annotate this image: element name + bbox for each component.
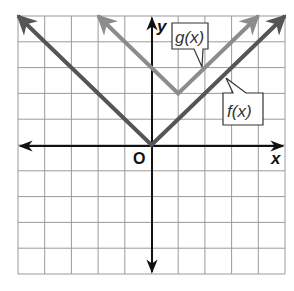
origin-label: O: [133, 150, 145, 167]
g-of-x-label: g(x): [175, 28, 204, 47]
y-axis-label: y: [156, 17, 168, 36]
x-axis-label: x: [270, 149, 282, 168]
g-of-x-callout: g(x): [172, 23, 208, 67]
coordinate-graph: y O x g(x) f(x): [0, 0, 294, 291]
f-of-x-callout: f(x): [223, 78, 263, 125]
f-of-x-label: f(x): [227, 102, 252, 121]
